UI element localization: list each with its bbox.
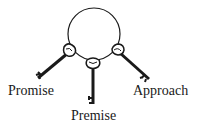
key-ring-diagram: Promise Premise Approach [0, 0, 198, 132]
key-icon-bottom [86, 58, 100, 104]
key-icon-right [112, 44, 149, 82]
key-label-premise: Premise [71, 109, 116, 123]
key-label-promise: Promise [8, 84, 54, 98]
key-icon-left [36, 44, 76, 79]
key-label-approach: Approach [133, 84, 188, 98]
